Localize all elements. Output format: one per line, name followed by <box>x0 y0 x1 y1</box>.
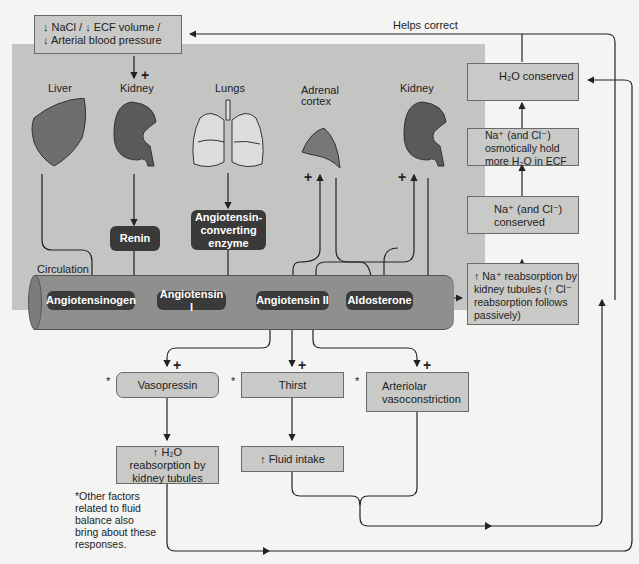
kidney-right-icon <box>400 100 450 170</box>
thirst-box: Thirst <box>241 372 344 398</box>
fluid-intake-box: ↑ Fluid intake <box>241 446 344 472</box>
na-conserved-box: Na⁺ (and Cl⁻) conserved <box>467 196 579 234</box>
circulation-label: Circulation <box>37 264 89 275</box>
asterisk-marker: * <box>231 375 235 387</box>
plus-marker: + <box>423 358 431 372</box>
liver-label: Liver <box>48 83 72 94</box>
adrenal-icon <box>300 128 344 172</box>
plus-marker: + <box>398 170 406 184</box>
na-reabsorption-box: ↑ Na⁺ reabsorption by kidney tubules (↑ … <box>467 263 579 325</box>
renin-box: Renin <box>110 226 160 251</box>
angiotensin-2-box: Angiotensin II <box>256 291 329 310</box>
kidney-left-icon <box>110 100 160 170</box>
adrenal-label: Adrenal cortex <box>301 85 341 107</box>
aldosterone-box: Aldosterone <box>346 291 413 310</box>
ace-box: Angiotensin-converting enzyme <box>191 210 266 250</box>
lungs-icon <box>190 98 266 172</box>
plus-marker: + <box>304 170 312 184</box>
plus-marker: + <box>173 358 181 372</box>
footnote: *Other factors related to fluid balance … <box>75 490 157 550</box>
blood-vessel-end <box>28 275 42 330</box>
vasopressin-box: Vasopressin <box>116 372 219 398</box>
h2o-conserved-box: H₂O conserved <box>467 63 579 101</box>
h2o-reabsorption-box: ↑ H₂O reabsorption by kidney tubules <box>116 446 219 484</box>
vasoconstriction-box: Arteriolar vasoconstriction <box>366 372 469 412</box>
plus-marker: + <box>141 68 149 82</box>
kidney-right-label: Kidney <box>400 83 434 94</box>
angiotensinogen-box: Angiotensinogen <box>47 291 135 310</box>
plus-marker: + <box>298 358 306 372</box>
kidney-left-label: Kidney <box>120 83 154 94</box>
stimulus-box: ↓ NaCl / ↓ ECF volume / ↓ Arterial blood… <box>34 15 182 54</box>
lungs-label: Lungs <box>215 83 245 94</box>
osmotic-hold-box: Na⁺ (and Cl⁻) osmotically hold more H₂O … <box>467 128 579 166</box>
angiotensin-1-box: Angiotensin I <box>157 291 226 310</box>
stimulus-line-1: ↓ NaCl / ↓ ECF volume / <box>43 21 173 34</box>
stimulus-line-2: ↓ Arterial blood pressure <box>43 34 173 47</box>
asterisk-marker: * <box>106 375 110 387</box>
helps-correct-label: Helps correct <box>393 20 458 31</box>
asterisk-marker: * <box>355 375 359 387</box>
liver-icon <box>26 98 90 170</box>
